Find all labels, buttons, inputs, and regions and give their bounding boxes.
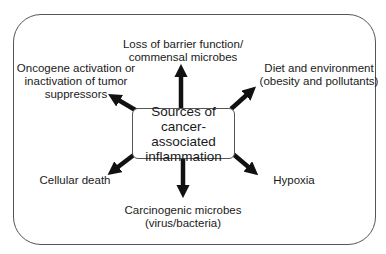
label-line: Carcinogenic microbes — [118, 204, 248, 217]
label-line: suppressors — [14, 88, 138, 101]
source-hypoxia: Hypoxia — [264, 174, 324, 187]
label-line: inactivation of tumor — [14, 75, 138, 88]
label-line: Diet and environment — [256, 62, 382, 75]
label-line: Loss of barrier function/ — [110, 38, 256, 51]
center-line-2: cancer-associated — [133, 119, 234, 149]
source-cell-death: Cellular death — [38, 174, 112, 187]
center-line-3: inflammation — [145, 149, 222, 164]
source-oncogene: Oncogene activation or inactivation of t… — [14, 62, 138, 101]
label-line: Oncogene activation or — [14, 62, 138, 75]
label-line: (obesity and pollutants) — [256, 75, 382, 88]
arrow-down-right — [233, 154, 252, 170]
label-line: (virus/bacteria) — [118, 217, 248, 230]
source-barrier: Loss of barrier function/ commensal micr… — [110, 38, 256, 64]
center-node: Sources of cancer-associated inflammatio… — [132, 108, 235, 159]
center-line-1: Sources of — [151, 104, 216, 119]
label-line: Hypoxia — [264, 174, 324, 187]
arrow-up-right — [231, 92, 250, 109]
label-line: Cellular death — [38, 174, 112, 187]
source-diet: Diet and environment (obesity and pollut… — [256, 62, 382, 88]
source-microbes: Carcinogenic microbes (virus/bacteria) — [118, 204, 248, 230]
arrow-down-left — [114, 154, 135, 170]
